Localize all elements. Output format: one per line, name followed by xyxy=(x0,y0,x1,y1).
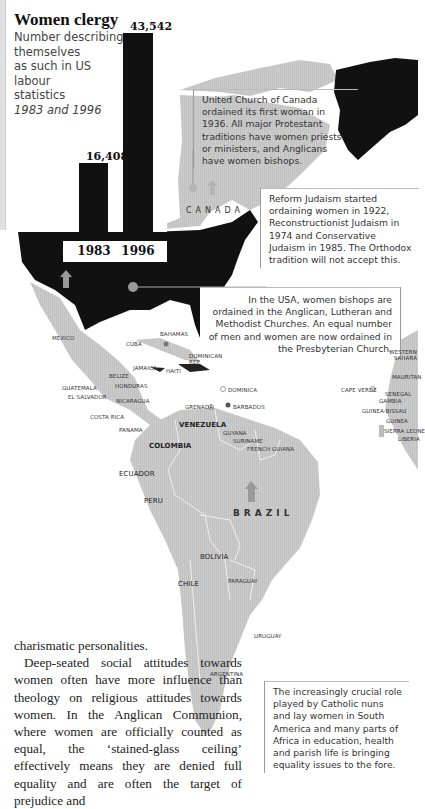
label-bahamas: BAHAMAS xyxy=(160,331,188,337)
bar-label-1996-top: 1996 xyxy=(113,244,163,258)
label-ecuador: ECUADOR xyxy=(119,470,155,478)
label-suriname: SURINAME xyxy=(233,438,263,444)
label-honduras: HONDURAS xyxy=(115,383,148,389)
chart-title: Women clergy xyxy=(14,10,118,30)
subtitle-line: statistics xyxy=(14,88,124,103)
label-belize: BELIZE xyxy=(109,373,129,379)
label-haiti: HAITI xyxy=(166,368,181,374)
label-nicaragua: NICARAGUA xyxy=(116,398,150,404)
label-barbados: BARBADOS xyxy=(233,404,265,410)
body-paragraph-2: Deep-seated social attitudes towards wom… xyxy=(14,654,242,809)
subtitle-line: Number describing xyxy=(14,30,124,45)
label-cape-verde: CAPE VERDE xyxy=(341,387,377,393)
barbados-marker xyxy=(226,403,231,408)
label-guyana: GUYANA xyxy=(223,430,246,436)
label-uruguay: URUGUAY xyxy=(254,633,282,639)
label-guinea: GUINEA xyxy=(386,418,408,424)
label-guinea-bissau: GUINEA-BISSAU xyxy=(362,408,407,414)
label-venezuela: VENEZUELA xyxy=(179,421,226,429)
chart-subtitle: Number describing themselves as such in … xyxy=(14,30,124,117)
label-liberia: LIBERIA xyxy=(398,436,420,442)
callout-judaism: Reform Judaism started ordaining women i… xyxy=(260,188,419,268)
bar-1983 xyxy=(79,163,108,241)
label-grenada: GRENADA xyxy=(185,404,213,410)
label-gambia: GAMBIA xyxy=(379,398,402,404)
label-jamaica: JAMAICA xyxy=(133,365,157,371)
label-bolivia: BOLIVIA xyxy=(200,553,229,561)
bar-value-1996: 43,542 xyxy=(126,20,176,33)
bar-1996 xyxy=(123,33,153,241)
subtitle-years: 1983 and 1996 xyxy=(14,103,124,118)
label-mexico: MEXICO xyxy=(52,335,74,341)
label-chile: CHILE xyxy=(178,580,199,588)
label-cuba: CUBA xyxy=(126,341,142,347)
label-paraguay: PARAGUAY xyxy=(228,578,258,584)
label-mauritania: MAURITAN xyxy=(392,374,422,380)
label-french-guiana: FRENCH GUIANA xyxy=(247,446,294,452)
canada-marker xyxy=(189,184,197,192)
dominica-marker xyxy=(221,387,226,392)
label-guatemala: GUATEMALA xyxy=(62,385,97,391)
body-text: charismatic personalities. Deep-seated s… xyxy=(14,637,242,809)
label-western-sahara: WESTERN SAHARA xyxy=(387,349,417,361)
body-paragraph-1: charismatic personalities. xyxy=(14,637,242,654)
callout-south-america: The increasingly crucial role played by … xyxy=(264,681,409,773)
label-colombia: COLOMBIA xyxy=(149,442,191,450)
label-senegal: SENEGAL xyxy=(385,391,411,397)
label-dominican-rep: DOMINICAN REP. xyxy=(189,353,217,365)
usa-arrow xyxy=(63,276,69,288)
bahamas-marker xyxy=(164,342,169,347)
label-el-salvador: EL SALVADOR xyxy=(68,394,107,400)
label-peru: PERU xyxy=(144,497,163,505)
subtitle-line: as such in US labour xyxy=(14,59,124,88)
callout-canada: United Church of Canada ordained its fir… xyxy=(193,89,358,169)
label-canada: CANADA xyxy=(186,206,244,215)
subtitle-line: themselves xyxy=(14,45,124,60)
label-costa-rica: COSTA RICA xyxy=(90,414,124,420)
brazil-arrow xyxy=(248,487,255,502)
label-panama: PANAMA xyxy=(119,427,143,433)
chart-frame-edge xyxy=(0,0,6,230)
label-brazil: BRAZIL xyxy=(233,508,293,518)
usa-marker xyxy=(128,282,138,292)
bar-label-1983-top: 1983 xyxy=(69,244,119,258)
callout-usa: In the USA, women bishops are ordained i… xyxy=(200,287,401,357)
label-dominica: DOMINICA xyxy=(228,387,257,393)
label-sierra-leone: SIERRA LEONE xyxy=(384,428,425,434)
